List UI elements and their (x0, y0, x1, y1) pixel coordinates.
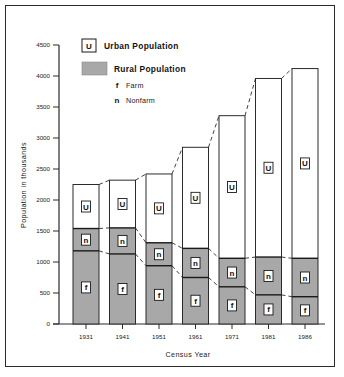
stacked-bar-chart: 050010001500200025003000350040004500 Pop… (0, 0, 344, 377)
x-tick-label-1986: 1986 (298, 333, 312, 340)
y-tick-label: 3500 (36, 103, 50, 110)
bar-glyph-nonfarm: n (84, 236, 89, 245)
y-tick-label: 1500 (36, 227, 50, 234)
y-tick-label: 500 (40, 289, 51, 296)
bar-glyph-farm: f (231, 301, 234, 310)
legend-farm-glyph: f (116, 81, 119, 90)
bar-1971: Unf (219, 116, 245, 324)
legend-farm-label: Farm (126, 81, 144, 90)
bar-glyph-urban: U (120, 200, 126, 209)
legend-urban-glyph: U (86, 42, 92, 51)
legend-urban-label: Urban Population (104, 41, 179, 51)
bar-glyph-farm: f (304, 306, 307, 315)
chart-legend: U Urban Population Rural Population f Fa… (82, 39, 186, 105)
bar-glyph-nonfarm: n (303, 274, 308, 283)
bar-glyph-nonfarm: n (157, 250, 162, 259)
bar-1941: Unf (110, 180, 136, 324)
bar-glyph-nonfarm: n (230, 269, 235, 278)
bar-glyph-farm: f (267, 305, 270, 314)
bar-1981: Unf (256, 78, 282, 324)
x-tick-label-1961: 1961 (189, 333, 203, 340)
y-tick-label: 3000 (36, 134, 50, 141)
x-axis-title: Census Year (165, 350, 210, 359)
bar-glyph-urban: U (302, 159, 308, 168)
x-tick-label-1951: 1951 (152, 333, 166, 340)
y-axis-ticks: 050010001500200025003000350040004500 (36, 41, 59, 327)
connector-farm (172, 266, 183, 278)
connector-rural (209, 248, 220, 258)
y-tick-label: 2500 (36, 165, 50, 172)
connector-farm (282, 295, 293, 297)
connector-rural (245, 257, 256, 258)
bar-1951: Unf (146, 174, 172, 324)
bar-glyph-nonfarm: n (120, 237, 125, 246)
y-tick-label: 1000 (36, 258, 50, 265)
connector-farm (209, 278, 220, 287)
connector-total (136, 174, 147, 180)
x-tick-label-1931: 1931 (79, 333, 93, 340)
connector-total (172, 147, 183, 174)
y-axis-title: Population in thousands (19, 142, 28, 228)
bar-glyph-nonfarm: n (266, 272, 271, 281)
bar-glyph-farm: f (194, 297, 197, 306)
connector-total (282, 69, 293, 79)
x-axis-labels: 1931194119511961197119811986 (79, 324, 312, 340)
x-tick-label-1981: 1981 (262, 333, 276, 340)
connector-rural (99, 228, 110, 229)
y-tick-label: 4500 (36, 41, 50, 48)
connector-farm (245, 287, 256, 295)
legend-swatch-rural (82, 62, 107, 75)
connector-farm (136, 254, 147, 266)
y-tick-label: 0 (47, 320, 51, 327)
x-tick-label-1971: 1971 (225, 333, 239, 340)
connector-total (209, 116, 220, 148)
bar-glyph-urban: U (229, 183, 235, 192)
connector-total (245, 78, 256, 115)
bar-group: UnfUnfUnfUnfUnfUnfUnf (73, 69, 318, 324)
bar-glyph-urban: U (193, 194, 199, 203)
figure-container: 050010001500200025003000350040004500 Pop… (0, 0, 344, 377)
connector-farm (99, 251, 110, 254)
connector-rural (136, 228, 147, 243)
x-tick-label-1941: 1941 (116, 333, 130, 340)
bar-glyph-nonfarm: n (193, 259, 198, 268)
legend-nonfarm-glyph: n (115, 96, 120, 105)
bar-glyph-farm: f (158, 291, 161, 300)
y-tick-label: 2000 (36, 196, 50, 203)
legend-rural-label: Rural Population (114, 64, 186, 74)
bar-glyph-farm: f (85, 283, 88, 292)
bar-glyph-urban: U (266, 164, 272, 173)
connector-rural (282, 257, 293, 258)
bar-glyph-urban: U (83, 203, 89, 212)
connector-rural (172, 243, 183, 249)
bar-glyph-urban: U (156, 204, 162, 213)
bar-1961: Unf (183, 147, 209, 324)
legend-nonfarm-label: Nonfarm (126, 96, 155, 105)
bar-1986: Unf (292, 69, 318, 324)
bar-1931: Unf (73, 185, 99, 325)
bar-glyph-farm: f (121, 285, 124, 294)
connector-total (99, 180, 110, 184)
y-tick-label: 4000 (36, 72, 50, 79)
